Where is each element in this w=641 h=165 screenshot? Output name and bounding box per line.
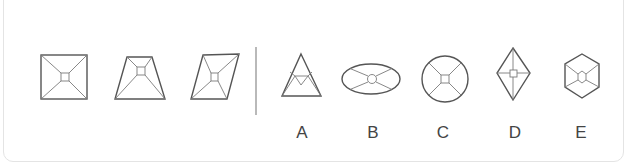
question-figure-parallelogram bbox=[191, 54, 239, 99]
option-label-b[interactable]: B bbox=[361, 123, 385, 143]
option-figure-a-triangle[interactable] bbox=[282, 54, 321, 96]
puzzle-canvas bbox=[0, 0, 641, 165]
option-label-c[interactable]: C bbox=[431, 123, 455, 143]
question-figure-trapezoid bbox=[115, 57, 165, 99]
option-label-a[interactable]: A bbox=[290, 123, 314, 143]
option-label-d[interactable]: D bbox=[503, 123, 527, 143]
option-figure-c-circle[interactable] bbox=[422, 56, 468, 102]
option-figure-b-ellipse[interactable] bbox=[342, 64, 400, 94]
question-figure-square bbox=[41, 55, 87, 99]
option-figure-d-rhombus[interactable] bbox=[497, 48, 530, 100]
option-figure-e-hexagon[interactable] bbox=[565, 54, 599, 98]
option-label-e[interactable]: E bbox=[569, 123, 593, 143]
